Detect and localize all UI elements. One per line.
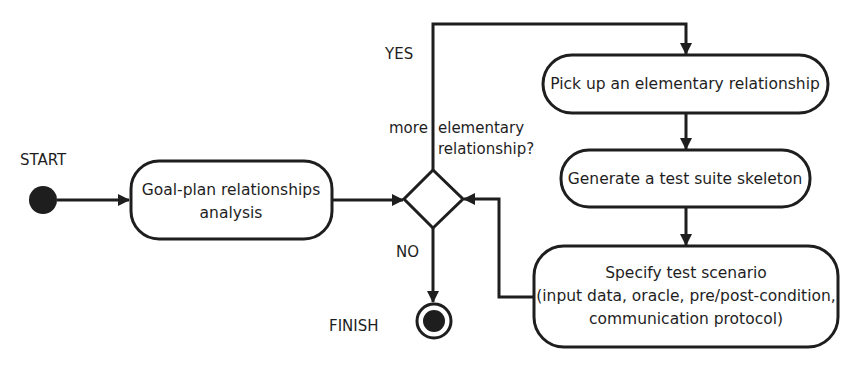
node-generate-skeleton: Generate a test suite skeleton xyxy=(561,150,810,207)
node-specify-line1: Specify test scenario xyxy=(605,264,767,282)
decision-label-more: more xyxy=(389,119,428,137)
node-specify-scenario: Specify test scenario (input data, oracl… xyxy=(534,246,838,347)
decision-label-elementary: elementary xyxy=(438,119,524,137)
node-specify-line2: (input data, oracle, pre/post-condition, xyxy=(536,287,835,305)
activity-diagram: START Goal-plan relationships analysis m… xyxy=(0,0,867,366)
node-specify-line3: communication protocol) xyxy=(589,310,783,328)
start-label: START xyxy=(20,151,67,169)
node-pick-relationship: Pick up an elementary relationship xyxy=(543,55,828,113)
decision-node xyxy=(404,170,463,228)
start-node xyxy=(29,186,57,214)
node-analysis-line1: Goal-plan relationships xyxy=(142,181,320,199)
yes-label: YES xyxy=(384,45,413,63)
finish-label: FINISH xyxy=(329,317,379,335)
node-pick-line1: Pick up an elementary relationship xyxy=(550,75,820,93)
edge-specify-decision-loop xyxy=(464,199,534,297)
node-generate-line1: Generate a test suite skeleton xyxy=(568,170,802,188)
decision-label-relationship: relationship? xyxy=(438,140,534,158)
no-label: NO xyxy=(396,243,419,261)
node-analysis-line2: analysis xyxy=(200,204,263,222)
finish-node xyxy=(417,304,451,338)
node-goal-plan-analysis: Goal-plan relationships analysis xyxy=(131,161,332,239)
